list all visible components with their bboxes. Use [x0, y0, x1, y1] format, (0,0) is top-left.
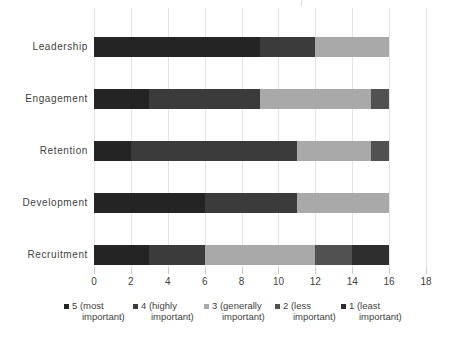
x-tick-label-10: 10 [266, 276, 290, 287]
bar-engagement [94, 89, 426, 109]
bar-segment-development-series-5 [94, 193, 205, 213]
legend-entry-1: 1 (leastimportant) [341, 301, 402, 322]
category-label-engagement: Engagement [0, 93, 88, 105]
x-tick-label-8: 8 [230, 276, 254, 287]
bar-retention [94, 141, 426, 161]
tick-mark-x-14 [352, 268, 353, 274]
bar-segment-retention-series-5 [94, 141, 131, 161]
bar-segment-engagement-series-2 [371, 89, 389, 109]
legend-label-line2: important) [222, 312, 265, 323]
legend-label-line2: important) [359, 312, 402, 323]
chart-canvas: LeadershipEngagementRetentionDevelopment… [0, 0, 456, 338]
bar-segment-engagement-series-3 [260, 89, 371, 109]
bar-segment-recruitment-series-1 [352, 245, 389, 265]
category-label-recruitment: Recruitment [0, 249, 88, 261]
x-tick-label-4: 4 [156, 276, 180, 287]
tick-mark-x-4 [168, 268, 169, 274]
plot-area [94, 8, 426, 268]
tick-mark-x-2 [131, 268, 132, 274]
legend-label-line1: 1 (least [349, 301, 402, 312]
legend-label: 4 (highlyimportant) [141, 301, 194, 322]
bar-segment-engagement-series-4 [149, 89, 260, 109]
tick-mark-x-16 [389, 268, 390, 274]
bar-leadership [94, 37, 426, 57]
legend-marker-icon [133, 304, 138, 309]
legend-label-line2: important) [151, 312, 194, 323]
legend-label: 5 (mostimportant) [72, 301, 125, 322]
legend: 5 (mostimportant)4 (highlyimportant)3 (g… [0, 301, 456, 327]
tick-mark-x-8 [242, 268, 243, 274]
legend-label: 1 (leastimportant) [349, 301, 402, 322]
legend-entry-2: 2 (lessimportant) [275, 301, 336, 322]
category-label-retention: Retention [0, 145, 88, 157]
bar-recruitment [94, 245, 426, 265]
bar-segment-development-series-3 [297, 193, 389, 213]
x-tick-label-0: 0 [82, 276, 106, 287]
x-tick-label-16: 16 [377, 276, 401, 287]
bar-segment-retention-series-2 [371, 141, 389, 161]
x-tick-label-2: 2 [119, 276, 143, 287]
bar-development [94, 193, 426, 213]
legend-entry-4: 4 (highlyimportant) [133, 301, 194, 322]
legend-entry-5: 5 (mostimportant) [64, 301, 125, 322]
bar-segment-development-series-4 [205, 193, 297, 213]
tick-mark-x-12 [315, 268, 316, 274]
tick-mark-x-6 [205, 268, 206, 274]
bar-segment-leadership-series-3 [315, 37, 389, 57]
category-label-leadership: Leadership [0, 41, 88, 53]
bar-segment-recruitment-series-2 [315, 245, 352, 265]
legend-label-line1: 3 (generally [212, 301, 265, 312]
gridline-x-18 [426, 8, 427, 268]
legend-entry-3: 3 (generallyimportant) [204, 301, 265, 322]
top-gridline-artifact [301, 0, 302, 6]
legend-label-line2: important) [293, 312, 336, 323]
legend-label-line1: 4 (highly [141, 301, 194, 312]
tick-mark-x-10 [278, 268, 279, 274]
x-tick-label-14: 14 [340, 276, 364, 287]
bar-segment-retention-series-4 [131, 141, 297, 161]
legend-label-line1: 2 (less [283, 301, 336, 312]
bar-segment-leadership-series-5 [94, 37, 260, 57]
legend-label: 3 (generallyimportant) [212, 301, 265, 322]
legend-marker-icon [204, 304, 209, 309]
bar-segment-recruitment-series-3 [205, 245, 316, 265]
bar-segment-recruitment-series-5 [94, 245, 149, 265]
tick-mark-x-18 [426, 268, 427, 274]
bar-segment-leadership-series-4 [260, 37, 315, 57]
bar-segment-recruitment-series-4 [149, 245, 204, 265]
legend-marker-icon [275, 304, 280, 309]
x-tick-label-6: 6 [193, 276, 217, 287]
legend-label-line1: 5 (most [72, 301, 125, 312]
tick-mark-x-0 [94, 268, 95, 274]
bar-segment-retention-series-3 [297, 141, 371, 161]
legend-label-line2: important) [82, 312, 125, 323]
x-tick-label-12: 12 [303, 276, 327, 287]
legend-marker-icon [341, 304, 346, 309]
legend-label: 2 (lessimportant) [283, 301, 336, 322]
x-tick-label-18: 18 [414, 276, 438, 287]
category-label-development: Development [0, 197, 88, 209]
legend-marker-icon [64, 304, 69, 309]
bar-segment-engagement-series-5 [94, 89, 149, 109]
